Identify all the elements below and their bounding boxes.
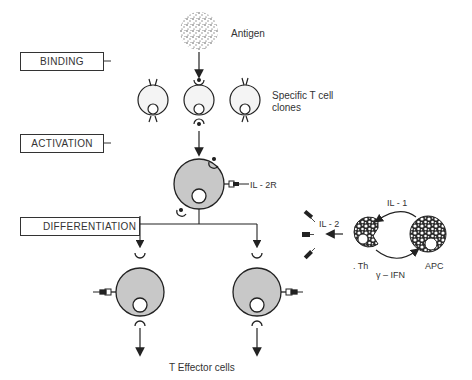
- il2-molecules: [302, 210, 315, 259]
- th-cell: [354, 217, 378, 247]
- antigen-particle: [180, 12, 218, 50]
- il2-label: IL - 2: [319, 218, 339, 230]
- il1-label: IL - 1: [387, 197, 407, 209]
- stage-activation: ACTIVATION: [20, 134, 104, 153]
- t-effector-cell-right: [233, 253, 303, 326]
- th-label: . Th: [353, 260, 368, 272]
- stage-differentiation: DIFFERENTIATION: [20, 217, 140, 236]
- t-effector-cell-left: [93, 253, 164, 326]
- t-cell-clone-3: [230, 78, 260, 122]
- il2r-receptor: [224, 181, 249, 187]
- il2r-label: IL - 2R: [250, 179, 277, 191]
- il1-arrow: [378, 212, 416, 220]
- specific-t-cell-label-2: clones: [272, 102, 301, 114]
- apc-cell: [410, 216, 446, 252]
- antigen-label: Antigen: [231, 28, 265, 40]
- ifn-arrow: [376, 250, 416, 258]
- stage-binding: BINDING: [20, 52, 104, 71]
- activated-t-cell: [174, 158, 224, 217]
- specific-t-cell-label: Specific T cell: [272, 90, 333, 102]
- t-effector-label: T Effector cells: [169, 362, 235, 374]
- apc-label: APC: [425, 260, 444, 272]
- t-cell-clone-1: [138, 79, 168, 122]
- t-cell-clone-selected: [184, 79, 214, 126]
- ifn-label: γ – IFN: [376, 269, 405, 281]
